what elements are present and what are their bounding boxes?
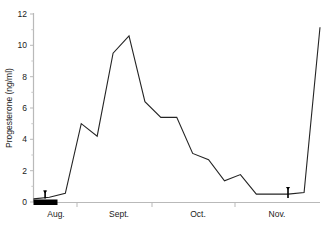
y-tick-label-6: 6: [22, 103, 27, 113]
y-tick-label-10: 10: [18, 40, 28, 50]
x-tick-label-sept: Sept.: [109, 209, 129, 219]
progesterone-line-chart: 0 2 4 6 8 10 12 Progesterone (ng/ml) Aug…: [0, 0, 327, 225]
x-tick-label-aug: Aug.: [47, 209, 65, 219]
right-arrow-marker: [286, 187, 290, 198]
y-tick-label-2: 2: [22, 166, 27, 176]
progesterone-series-line: [34, 27, 321, 199]
x-tick-label-nov: Nov.: [269, 209, 286, 219]
mating-period-bar: [34, 200, 58, 206]
y-tick-label-4: 4: [22, 134, 27, 144]
chart-page: 0 2 4 6 8 10 12 Progesterone (ng/ml) Aug…: [0, 0, 327, 225]
x-axis-ticks: [77, 203, 235, 208]
x-tick-label-oct: Oct.: [190, 209, 206, 219]
y-tick-label-0: 0: [22, 197, 27, 207]
y-tick-label-8: 8: [22, 72, 27, 82]
y-axis-title: Progesterone (ng/ml): [4, 68, 14, 148]
y-tick-label-12: 12: [18, 9, 28, 19]
